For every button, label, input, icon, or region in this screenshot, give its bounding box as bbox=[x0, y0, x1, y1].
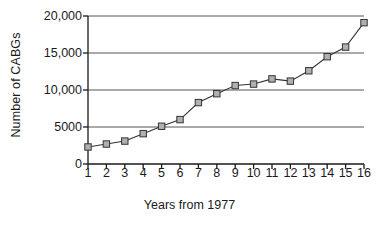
data-point-marker bbox=[324, 54, 330, 60]
data-point-marker bbox=[250, 81, 256, 87]
data-point-marker bbox=[214, 91, 220, 97]
x-axis-tick-label: 3 bbox=[121, 166, 128, 180]
data-point-marker bbox=[140, 130, 146, 136]
x-axis-tick-label: 4 bbox=[140, 166, 147, 180]
data-point-marker bbox=[269, 76, 275, 82]
plot-area bbox=[0, 0, 379, 226]
x-axis-tick-label: 15 bbox=[339, 166, 353, 180]
x-axis-tick-label: 10 bbox=[247, 166, 261, 180]
x-axis-tick-labels: 12345678910111213141516 bbox=[0, 166, 379, 184]
data-point-marker bbox=[342, 44, 348, 50]
x-axis-tick-label: 14 bbox=[320, 166, 334, 180]
data-series-line bbox=[88, 23, 364, 147]
data-point-marker bbox=[195, 99, 201, 105]
x-axis-tick-label: 16 bbox=[357, 166, 371, 180]
data-point-marker bbox=[306, 68, 312, 74]
data-point-marker bbox=[103, 141, 109, 147]
x-axis-tick-label: 11 bbox=[266, 166, 279, 180]
data-point-marker bbox=[361, 19, 367, 25]
data-point-marker bbox=[287, 78, 293, 84]
data-series-markers bbox=[85, 19, 367, 150]
x-axis-tick-label: 6 bbox=[177, 166, 184, 180]
x-axis-tick-label: 7 bbox=[195, 166, 202, 180]
gridlines bbox=[88, 16, 364, 127]
x-axis-tick-label: 9 bbox=[232, 166, 239, 180]
x-axis-tick-label: 13 bbox=[302, 166, 316, 180]
y-axis-ticks bbox=[83, 16, 88, 164]
data-point-marker bbox=[158, 123, 164, 129]
data-point-marker bbox=[232, 82, 238, 88]
data-point-marker bbox=[85, 144, 91, 150]
x-axis-tick-label: 8 bbox=[213, 166, 220, 180]
chart-figure: Number of CABGs 0500010,00015,00020,000 … bbox=[0, 0, 379, 226]
x-axis-tick-label: 2 bbox=[103, 166, 110, 180]
x-axis-tick-label: 5 bbox=[158, 166, 165, 180]
data-point-marker bbox=[177, 116, 183, 122]
x-axis-tick-label: 1 bbox=[85, 166, 92, 180]
x-axis-tick-label: 12 bbox=[283, 166, 297, 180]
x-axis-title: Years from 1977 bbox=[0, 198, 379, 212]
data-point-marker bbox=[122, 138, 128, 144]
